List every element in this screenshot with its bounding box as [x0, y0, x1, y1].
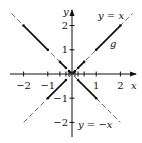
segment-endpoint: [22, 24, 25, 27]
y-tick-label: −2: [53, 117, 68, 128]
segment-endpoint: [95, 97, 98, 100]
segment-endpoint: [83, 61, 86, 64]
segment-endpoint: [47, 97, 50, 100]
label-y-equals-x: y = x: [97, 10, 124, 21]
g-segment: [96, 26, 120, 50]
segment-endpoint: [47, 49, 50, 52]
y-tick-label: 2: [62, 20, 68, 31]
g-segment: [24, 26, 48, 50]
y-tick-label: 1: [62, 44, 68, 55]
segment-endpoint: [95, 49, 98, 52]
segment-endpoint: [77, 67, 80, 70]
segment-endpoint: [65, 67, 68, 70]
segment-endpoint: [74, 70, 77, 73]
graph-figure: x y y = x y = −x g −2−11221−1−2: [0, 0, 142, 143]
x-tick-label: 1: [93, 80, 99, 91]
x-tick-label: 2: [117, 80, 123, 91]
x-axis-arrow-icon: [130, 72, 137, 77]
segment-endpoint: [77, 79, 80, 82]
x-tick-label: −1: [40, 80, 55, 91]
y-axis-label: y: [62, 6, 69, 17]
x-tick-label: −2: [16, 80, 31, 91]
coordinate-plane: x y y = x y = −x g −2−11221−1−2: [0, 0, 142, 143]
y-axis-arrow-icon: [70, 9, 75, 16]
label-g: g: [110, 38, 116, 49]
x-axis-label: x: [131, 80, 137, 91]
label-y-equals-neg-x: y = −x: [77, 119, 113, 130]
segment-endpoint: [59, 61, 62, 64]
segment-endpoint: [119, 24, 122, 27]
y-tick-label: −1: [53, 93, 68, 104]
segment-endpoint: [65, 79, 68, 82]
segment-endpoint: [69, 71, 72, 74]
